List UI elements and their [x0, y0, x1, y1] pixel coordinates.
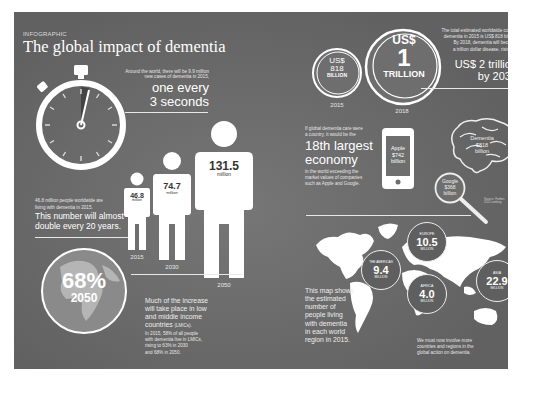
- region-badge-africa: AFRICA 4.0 MILLION: [407, 274, 447, 314]
- divider: [125, 112, 208, 113]
- person-icon-2030: [152, 152, 192, 262]
- year-2050: 2050: [194, 282, 254, 288]
- cost-headline: US$ 2 trillion by 2030: [419, 59, 508, 82]
- page-title: The global impact of dementia: [23, 38, 226, 57]
- coin-2015-label: US$ 818 BILLION: [311, 57, 363, 78]
- year-2030: 2030: [152, 264, 192, 270]
- lmic-year: 2050: [40, 292, 128, 306]
- lmic-detail: In 2015, 58% of all people with dementia…: [145, 331, 245, 356]
- economy-intro: If global dementia care were a country, …: [305, 126, 385, 138]
- lmic-percent: 68%: [40, 270, 128, 292]
- coin-2015-year: 2015: [311, 102, 363, 108]
- person-icon-2015: [123, 172, 151, 252]
- divider: [131, 274, 243, 275]
- new-cases-intro: Around the world, there will be 9.9 mill…: [114, 69, 209, 80]
- source-note: Source: Forbes 2015 ranking: [484, 198, 508, 205]
- economy-detail: in the world exceeding the market values…: [305, 169, 385, 188]
- divider: [421, 88, 508, 89]
- figure-2050-label: 131.5 million: [194, 160, 254, 177]
- coin-2018-year: 2018: [376, 108, 428, 114]
- infographic-panel: INFOGRAPHIC The global impact of dementi…: [14, 12, 508, 369]
- apple-label: Apple $742 billion: [386, 145, 410, 165]
- region-badge-europe: EUROPE 10.5 MILLION: [407, 222, 447, 262]
- google-label: Google $368 billion: [436, 178, 464, 196]
- person-icon-2050: [194, 120, 254, 280]
- map-caption: This map shows the estimated number of p…: [305, 287, 375, 344]
- map-footer: We must now involve more countries and r…: [417, 338, 497, 357]
- cost-intro: The total estimated worldwide cost of de…: [429, 28, 508, 53]
- figure-2015-label: 46.8 million: [123, 192, 151, 203]
- dementia-label: Dementia $818 billion: [466, 135, 498, 155]
- stopwatch-icon: [34, 65, 129, 180]
- figure-2030-label: 74.7 million: [152, 182, 192, 195]
- lmic-headline: Much of the increase will take place in …: [145, 297, 245, 330]
- region-badge-americas: THE AMERICAS 9.4 MILLION: [361, 250, 401, 290]
- divider: [35, 237, 135, 238]
- new-cases-headline: one every 3 seconds: [124, 81, 209, 108]
- divider: [306, 215, 471, 216]
